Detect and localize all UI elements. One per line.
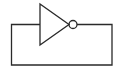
inverter-gate-triangle <box>40 4 69 45</box>
feedback-wire <box>12 25 113 66</box>
inverter-output-bubble <box>69 21 77 29</box>
diagram-canvas <box>0 0 121 67</box>
inverter-loop-diagram <box>0 0 121 67</box>
